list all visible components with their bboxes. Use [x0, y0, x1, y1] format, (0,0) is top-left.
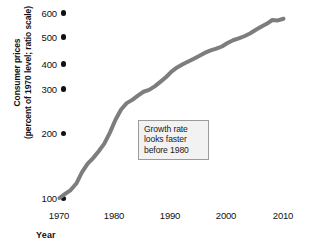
annotation-line-2: looks faster [144, 134, 204, 144]
y-axis-tick-dot-600 [61, 10, 66, 15]
y-axis-tick-label-400: 400 [42, 59, 57, 70]
y-axis-tick-dot-500 [61, 34, 66, 39]
annotation-line-1: Growth rate [144, 124, 204, 134]
x-axis-title: Year [36, 230, 56, 240]
x-axis-tick-1990: 1990 [148, 205, 192, 223]
x-axis-tick-label-2010: 2010 [273, 210, 293, 221]
x-axis-tick-label-1980: 1980 [104, 210, 124, 221]
y-axis-tick-600: 600 [0, 8, 66, 19]
y-axis-tick-dot-200 [61, 131, 66, 136]
x-axis-tick-1980: 1980 [92, 205, 136, 223]
y-axis-tick-dot-100 [61, 196, 66, 201]
y-axis-tick-label-300: 300 [42, 84, 57, 95]
y-axis-tick-100: 100 [0, 193, 66, 204]
chart-container: Consumer prices (percent of 1970 level; … [0, 0, 309, 248]
annotation-line-3: before 1980 [144, 145, 204, 155]
x-axis-tick-label-1990: 1990 [160, 210, 180, 221]
y-axis-tick-300: 300 [0, 84, 66, 95]
y-axis-tick-500: 500 [0, 32, 66, 43]
y-axis-tick-label-600: 600 [42, 8, 57, 19]
y-axis-tick-200: 200 [0, 128, 66, 139]
x-axis-tick-1970: 1970 [37, 205, 81, 223]
x-axis-tick-label-1970: 1970 [49, 210, 69, 221]
y-axis-tick-label-500: 500 [42, 32, 57, 43]
y-axis-tick-400: 400 [0, 59, 66, 70]
annotation-callout: Growth rate looks faster before 1980 [138, 120, 209, 160]
x-axis-tick-2000: 2000 [204, 205, 248, 223]
y-axis-tick-dot-300 [61, 86, 66, 91]
x-axis-tick-label-2000: 2000 [216, 210, 236, 221]
y-axis-tick-label-200: 200 [42, 128, 57, 139]
y-axis-tick-dot-400 [61, 61, 66, 66]
series-line-consumer-prices [60, 19, 284, 198]
y-axis-tick-label-100: 100 [42, 193, 57, 204]
x-axis-tick-2010: 2010 [261, 205, 305, 223]
